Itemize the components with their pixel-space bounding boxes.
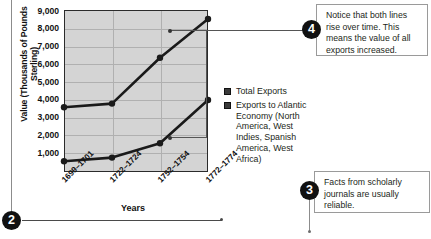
series-total-exports-point [61,104,67,110]
callout-4-bracket-spine [206,30,207,137]
y-tick-7000: 7,000 [0,41,59,51]
legend-item-atlantic-economy: Exports to Atlantic Economy (North Ameri… [224,100,320,165]
series-total-exports-line [64,19,208,107]
y-tick-6000: 6,000 [0,59,59,69]
callout-badge-3: 3 [300,181,319,200]
y-tick-2000: 2,000 [0,130,59,140]
series-layer [64,10,208,172]
figure-root: Value (Thousands of Pounds Sterling) Yea… [0,0,431,239]
legend-label-total-exports: Total Exports [236,86,287,97]
x-axis-title: Years [63,203,203,213]
callout-4-pointer-lower [170,137,207,138]
callout-4-pointer-upper [170,30,207,31]
callout-note-4: Notice that both lines rise over time. T… [316,4,428,56]
callout-3-leader-line [309,198,310,231]
series-total-exports-point [109,100,115,106]
y-tick-5000: 5,000 [0,77,59,87]
callout-4-pointer-upper-dot [168,29,172,33]
legend-item-total-exports: Total Exports [224,86,320,97]
legend-swatch-icon [224,88,231,95]
series-total-exports-point [157,55,163,61]
series-atlantic-economy-point [157,140,163,146]
y-tick-1000: 1,000 [0,148,59,158]
line-chart: Value (Thousands of Pounds Sterling) Yea… [0,0,240,215]
y-tick-9000: 9,000 [0,6,59,16]
series-total-exports-point [205,16,211,22]
series-atlantic-economy-point [109,154,115,160]
callout-4-bracket-arm [206,30,316,31]
series-atlantic-economy-point [61,158,67,164]
chart-legend: Total Exports Exports to Atlantic Econom… [224,86,320,168]
callout-4-pointer-lower-dot [168,136,172,140]
y-tick-3000: 3,000 [0,112,59,122]
y-tick-4000: 4,000 [0,94,59,104]
legend-swatch-icon [224,102,231,109]
callout-2-horizontal-rule [22,220,222,221]
legend-label-atlantic-economy: Exports to Atlantic Economy (North Ameri… [236,100,320,165]
callout-badge-4: 4 [302,20,321,39]
callout-badge-2: 2 [2,211,21,230]
callout-note-3: Facts from scholarly journals are usuall… [314,171,430,213]
callout-2-leader-dot [220,218,223,221]
y-tick-8000: 8,000 [0,23,59,33]
callout-3-leader-dot [308,230,311,233]
